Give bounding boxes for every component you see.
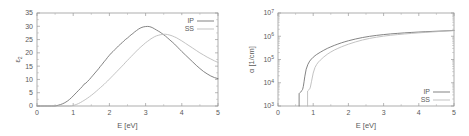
- y-tick-label: 30: [25, 23, 33, 30]
- y-tick-label: 104: [263, 78, 274, 87]
- legend-label-ss: SS: [185, 25, 195, 32]
- legend-label-ip: IP: [187, 17, 194, 24]
- y-tick-label: 35: [25, 9, 33, 16]
- x-axis-title: E [eV]: [356, 121, 376, 130]
- chart-right-svg: 012345 103104105106107 E [eV] α [1/cm] I…: [234, 0, 469, 136]
- y-tick-label: 107: [263, 8, 274, 17]
- x-tick-label: 2: [107, 109, 111, 116]
- x-axis-tick-labels: 012345: [276, 109, 456, 116]
- y-axis-title-subscript: 2: [17, 56, 23, 59]
- x-tick-label: 1: [311, 109, 315, 116]
- x-tick-label: 3: [382, 109, 386, 116]
- x-tick-label: 4: [180, 109, 184, 116]
- x-tick-label: 2: [346, 109, 350, 116]
- y-tick-label: 25: [25, 36, 33, 43]
- y-axis-title-text: ε2: [13, 56, 23, 62]
- x-tick-label: 5: [452, 109, 456, 116]
- y-tick-label: 20: [25, 49, 33, 56]
- chart-panel-right: 012345 103104105106107 E [eV] α [1/cm] I…: [234, 0, 469, 136]
- figure-container: 012345 05101520253035 E [eV] ε2 IPSS 012…: [0, 0, 469, 136]
- y-axis-title: ε2: [13, 56, 23, 62]
- chart-left-svg: 012345 05101520253035 E [eV] ε2 IPSS: [0, 0, 235, 136]
- x-tick-label: 5: [216, 109, 220, 116]
- y-tick-label: 106: [263, 31, 274, 40]
- y-tick-label: 5: [29, 89, 33, 96]
- y-axis-tick-labels: 103104105106107: [263, 8, 274, 110]
- y-tick-label: 105: [263, 54, 274, 63]
- y-axis-title: α [1/cm]: [247, 46, 256, 73]
- y-tick-label: 103: [263, 101, 274, 110]
- legend: IPSS: [170, 15, 216, 32]
- x-tick-label: 0: [276, 109, 280, 116]
- x-tick-label: 3: [144, 109, 148, 116]
- x-tick-label: 0: [35, 109, 39, 116]
- y-axis-tick-labels: 05101520253035: [25, 9, 33, 109]
- series-line-ss: [37, 34, 218, 106]
- legend-label-ss: SS: [421, 96, 431, 103]
- x-axis-tick-labels: 012345: [35, 109, 220, 116]
- y-tick-label: 0: [29, 102, 33, 109]
- legend-label-ip: IP: [423, 88, 430, 95]
- x-tick-label: 4: [417, 109, 421, 116]
- x-axis-title: E [eV]: [117, 121, 137, 130]
- chart-panel-left: 012345 05101520253035 E [eV] ε2 IPSS: [0, 0, 235, 136]
- data-series-group: [37, 26, 218, 106]
- y-tick-label: 15: [25, 63, 33, 70]
- y-tick-label: 10: [25, 76, 33, 83]
- x-tick-label: 1: [71, 109, 75, 116]
- legend: IPSS: [406, 86, 452, 103]
- series-line-ip: [37, 26, 218, 106]
